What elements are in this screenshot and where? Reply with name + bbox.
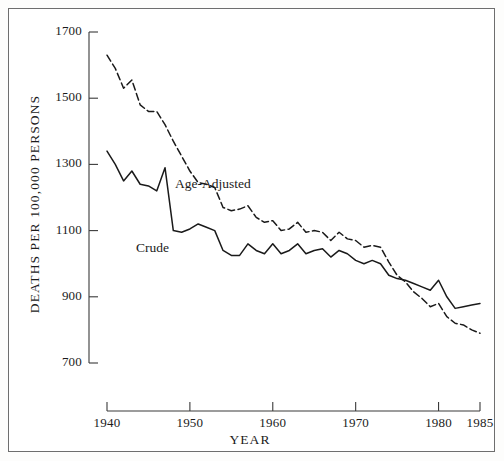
y-tick-label: 900: [12, 288, 82, 304]
x-tick-label: 1985: [450, 415, 504, 431]
axes-group: [89, 32, 480, 411]
x-axis-title: YEAR: [229, 432, 270, 448]
y-tick-label: 1700: [12, 23, 82, 39]
y-tick-label: 1300: [12, 155, 82, 171]
x-tick-label: 1950: [160, 415, 220, 431]
series-label-age-adjusted: Age-Adjusted: [175, 176, 251, 192]
series-label-crude: Crude: [136, 240, 169, 256]
data-series-group: [107, 55, 480, 333]
series-line-age-adjusted: [107, 55, 480, 333]
x-tick-label: 1940: [77, 415, 137, 431]
y-tick-label: 700: [12, 354, 82, 370]
x-tick-label: 1970: [326, 415, 386, 431]
figure-container: 7009001100130015001700 19401950196019701…: [0, 0, 504, 461]
y-tick-label: 1100: [12, 222, 82, 238]
x-tick-label: 1960: [243, 415, 303, 431]
y-axis-title: DEATHS PER 100,000 PERSONS: [27, 89, 43, 319]
series-line-crude: [107, 151, 480, 308]
y-tick-label: 1500: [12, 89, 82, 105]
